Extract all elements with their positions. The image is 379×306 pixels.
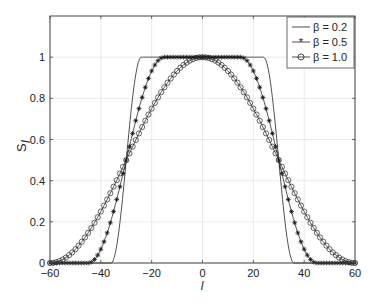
y-tick-label: 0 (39, 257, 45, 269)
x-tick-label: 60 (349, 267, 361, 279)
y-axis-ticks: 00.20.40.60.81 (30, 51, 355, 269)
y-tick-label: 0.2 (30, 216, 45, 228)
legend-item-beta-0.5: * β = 0.5 (292, 36, 347, 48)
svg-text:l: l (19, 140, 33, 143)
x-axis-label: l (201, 279, 204, 293)
star-marker-icon: * (299, 36, 304, 48)
y-tick-label: 1 (39, 51, 45, 63)
y-tick-label: 0.4 (30, 175, 45, 187)
svg-text:β = 1.0: β = 1.0 (313, 51, 347, 63)
x-tick-label: 0 (199, 267, 205, 279)
svg-text:β = 0.2: β = 0.2 (313, 21, 347, 33)
y-axis-label: S l (14, 140, 33, 152)
legend: β = 0.2 * β = 0.5 β = 1.0 (287, 17, 354, 68)
y-tick-label: 0.8 (30, 92, 45, 104)
x-tick-label: −20 (142, 267, 161, 279)
x-tick-label: 20 (247, 267, 259, 279)
x-tick-label: 40 (298, 267, 310, 279)
svg-text:S: S (14, 143, 29, 152)
svg-text:β = 0.5: β = 0.5 (313, 36, 347, 48)
x-tick-label: −40 (91, 267, 110, 279)
line-chart: −60−40−200204060 00.20.40.60.81 l S l β … (0, 0, 379, 306)
